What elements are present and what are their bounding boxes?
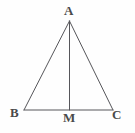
vertex-label-m: M [63, 111, 75, 124]
segment-ac [70, 21, 114, 110]
segment-ab [24, 21, 70, 110]
geometry-figure: A B C M [0, 0, 135, 133]
vertex-label-c: C [112, 108, 121, 121]
triangle-segments [24, 21, 113, 110]
vertex-label-b: B [10, 106, 19, 119]
vertex-label-a: A [64, 4, 73, 17]
